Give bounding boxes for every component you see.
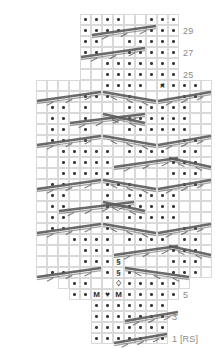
purl-stitch-dot [183, 84, 185, 86]
purl-stitch-dot [106, 73, 108, 75]
purl-stitch-dot [150, 304, 152, 306]
cable-cross-r23b [124, 265, 190, 282]
chart-cell [36, 157, 47, 168]
purl-stitch-dot [161, 51, 163, 53]
purl-stitch-dot [84, 128, 86, 130]
purl-stitch-dot [51, 128, 53, 130]
purl-stitch-dot [139, 84, 141, 86]
cable-cross-r9b [102, 111, 146, 128]
cable-cross-r15a [36, 177, 102, 194]
purl-stitch-dot [95, 172, 97, 174]
knitting-chart: ⑁§§♢M♥M2927252321191715131197531 [RS] [0, 0, 215, 348]
purl-stitch-dot [106, 62, 108, 64]
purl-stitch-dot [161, 117, 163, 119]
purl-stitch-dot [161, 205, 163, 207]
cable-cross-r21b [168, 243, 212, 260]
purl-stitch-dot [183, 106, 185, 108]
purl-stitch-dot [106, 260, 108, 262]
purl-stitch-dot [106, 161, 108, 163]
cable-cross-r19c [157, 221, 212, 238]
purl-stitch-dot [128, 84, 130, 86]
bobble-symbol-chain-2: § [113, 267, 124, 278]
purl-stitch-dot [106, 304, 108, 306]
purl-stitch-dot [183, 128, 185, 130]
chart-cell [201, 113, 212, 124]
purl-stitch-dot [139, 304, 141, 306]
purl-stitch-dot [139, 293, 141, 295]
purl-stitch-dot [172, 128, 174, 130]
purl-stitch-dot [106, 315, 108, 317]
purl-stitch-dot [139, 194, 141, 196]
purl-stitch-dot [194, 271, 196, 273]
purl-stitch-dot [95, 238, 97, 240]
purl-stitch-dot [150, 326, 152, 328]
purl-stitch-dot [172, 205, 174, 207]
purl-stitch-dot [95, 304, 97, 306]
purl-stitch-dot [183, 172, 185, 174]
purl-stitch-dot [117, 304, 119, 306]
purl-stitch-dot [62, 150, 64, 152]
cable-cross-r7c [157, 89, 212, 106]
chart-cell [36, 245, 47, 256]
purl-stitch-dot [84, 40, 86, 42]
purl-stitch-dot [172, 84, 174, 86]
purl-stitch-dot [95, 40, 97, 42]
purl-stitch-dot [62, 128, 64, 130]
row-number-label: 29 [183, 26, 193, 36]
purl-stitch-dot [150, 51, 152, 53]
purl-stitch-dot [73, 161, 75, 163]
purl-stitch-dot [150, 293, 152, 295]
chart-cell [190, 113, 201, 124]
purl-stitch-dot [95, 337, 97, 339]
purl-stitch-dot [95, 315, 97, 317]
purl-stitch-dot [95, 249, 97, 251]
cable-cross-r19b [102, 221, 157, 238]
purl-stitch-dot [73, 282, 75, 284]
purl-stitch-dot [84, 238, 86, 240]
row-number-label: 5 [183, 290, 188, 300]
purl-stitch-dot [95, 150, 97, 152]
purl-stitch-dot [172, 260, 174, 262]
purl-stitch-dot [117, 315, 119, 317]
purl-stitch-dot [128, 73, 130, 75]
purl-stitch-dot [128, 62, 130, 64]
chart-cell [179, 201, 190, 212]
purl-stitch-dot [84, 106, 86, 108]
chart-cell [80, 69, 91, 80]
purl-stitch-dot [150, 216, 152, 218]
purl-stitch-dot [150, 62, 152, 64]
chart-cell [47, 245, 58, 256]
cable-cross-r15c [157, 177, 212, 194]
purl-stitch-dot [150, 282, 152, 284]
purl-stitch-dot [172, 216, 174, 218]
purl-stitch-dot [139, 326, 141, 328]
bobble-symbol-chain-1: § [113, 256, 124, 267]
chart-cell [36, 113, 47, 124]
purl-stitch-dot [128, 106, 130, 108]
purl-stitch-dot [161, 194, 163, 196]
chart-cell [47, 157, 58, 168]
purl-stitch-dot [161, 326, 163, 328]
purl-stitch-dot [172, 51, 174, 53]
purl-stitch-dot [172, 117, 174, 119]
purl-stitch-dot [139, 40, 141, 42]
purl-stitch-dot [117, 62, 119, 64]
purl-stitch-dot [51, 205, 53, 207]
purl-stitch-dot [150, 106, 152, 108]
purl-stitch-dot [128, 128, 130, 130]
purl-stitch-dot [73, 293, 75, 295]
purl-stitch-dot [128, 293, 130, 295]
row-number-label: 25 [183, 70, 193, 80]
purl-stitch-dot [51, 117, 53, 119]
purl-stitch-dot [194, 238, 196, 240]
purl-stitch-dot [106, 84, 108, 86]
purl-stitch-dot [95, 260, 97, 262]
purl-stitch-dot [106, 238, 108, 240]
cable-cross-r29 [113, 331, 168, 348]
purl-stitch-dot [128, 326, 130, 328]
purl-stitch-dot [62, 216, 64, 218]
purl-stitch-dot [62, 161, 64, 163]
purl-stitch-dot [161, 150, 163, 152]
cable-cross-r7a [36, 89, 102, 106]
purl-stitch-dot [128, 194, 130, 196]
